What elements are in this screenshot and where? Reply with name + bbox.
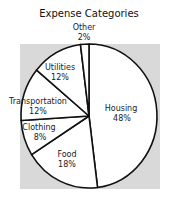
slice-name: Utilities bbox=[45, 63, 75, 72]
slice-name: Food bbox=[57, 150, 76, 159]
slice-value: 8% bbox=[34, 133, 47, 142]
slice-value: 12% bbox=[29, 107, 47, 116]
slice-value: 48% bbox=[113, 114, 131, 123]
slice-value: 12% bbox=[51, 73, 69, 82]
slice-label-other: Other 2% bbox=[73, 23, 96, 42]
slice-value: 18% bbox=[58, 160, 76, 169]
slice-name: Housing bbox=[105, 104, 138, 113]
pie-chart: Expense Categories Housing 48% Food 18% … bbox=[0, 0, 169, 197]
slice-label-food: Food 18% bbox=[57, 150, 76, 169]
slice-value: 2% bbox=[78, 33, 91, 42]
slice-name: Other bbox=[73, 23, 96, 32]
slice-name: Clothing bbox=[22, 123, 55, 132]
slice-name: Transportation bbox=[8, 97, 67, 106]
chart-title: Expense Categories bbox=[39, 8, 139, 19]
